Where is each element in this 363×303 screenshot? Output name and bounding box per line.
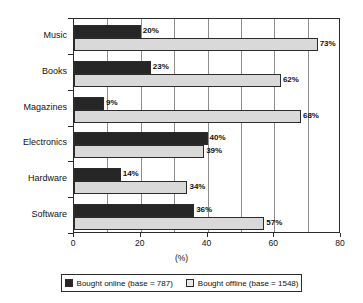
bar-value-label: 34% [186,180,205,193]
y-axis-tick [68,161,73,162]
bar-offline [74,217,264,230]
category-label-electronics: Electronics [0,137,67,147]
gridline [141,19,142,232]
bar-offline [74,74,281,87]
gridline [308,19,309,232]
x-axis-tick [140,233,141,237]
x-axis-tick [273,233,274,237]
bar-offline [74,38,318,51]
x-axis-tick-label: 20 [125,238,155,248]
bar-value-label: 73% [317,37,336,50]
bar-value-label: 68% [300,109,319,122]
x-axis-tick [207,233,208,237]
chart-legend: Bought online (base = 787) Bought offlin… [61,274,302,292]
y-axis-tick [68,197,73,198]
bar-value-label: 57% [263,216,282,229]
x-axis-tick-label: 0 [58,238,88,248]
legend-label-online: Bought online (base = 787) [77,279,173,288]
y-axis-tick [68,90,73,91]
gridline [208,19,209,232]
legend-item-offline: Bought offline (base = 1548) [186,279,299,288]
bar-value-label: 39% [203,144,222,157]
legend-item-online: Bought online (base = 787) [65,279,173,288]
gridline [174,19,175,232]
category-label-magazines: Magazines [0,102,67,112]
bar-online [74,25,141,38]
gridline [274,19,275,232]
x-axis-tick-label: 40 [192,238,222,248]
legend-label-offline: Bought offline (base = 1548) [198,279,299,288]
bar-offline [74,181,187,194]
gridline [241,19,242,232]
bar-offline [74,145,204,158]
bar-online [74,204,194,217]
legend-swatch-online-icon [65,279,73,287]
bar-value-label: 14% [120,167,139,180]
bar-online [74,168,121,181]
x-axis-tick-label: 60 [258,238,288,248]
bar-value-label: 36% [193,203,212,216]
bar-value-label: 23% [150,60,169,73]
plot-area [73,18,340,233]
category-label-hardware: Hardware [0,173,67,183]
x-axis-title: (%) [0,253,363,263]
bar-online [74,61,151,74]
bar-value-label: 40% [207,131,226,144]
y-axis-tick [68,54,73,55]
category-label-software: Software [0,209,67,219]
bar-online [74,97,104,110]
x-axis-tick-label: 80 [325,238,355,248]
legend-swatch-offline-icon [186,279,194,287]
gridline [107,19,108,232]
bar-value-label: 9% [103,96,118,109]
bar-online [74,132,208,145]
category-label-books: Books [0,66,67,76]
y-axis-tick [68,126,73,127]
x-axis-tick [340,233,341,237]
bar-chart-figure: MusicBooksMagazinesElectronicsHardwareSo… [0,0,363,303]
bar-value-label: 62% [280,73,299,86]
x-axis-tick [73,233,74,237]
bar-value-label: 20% [140,24,159,37]
bar-offline [74,110,301,123]
y-axis-tick [68,18,73,19]
category-label-music: Music [0,30,67,40]
